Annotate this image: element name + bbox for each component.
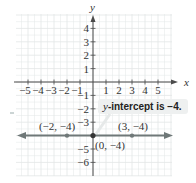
y-tick-label: −6 [77,156,89,168]
y-tick-label: 4 [84,22,90,34]
x-tick-label: 4 [142,84,148,96]
y-tick-label: −3 [77,116,89,128]
x-tick-label: −5 [19,84,31,96]
right-arrow-icon [164,132,173,139]
y-tick-label: −2 [77,103,89,115]
x-tick-label: 3 [129,84,135,96]
y-tick-labels: 4321−1−2−3−5−6 [77,22,89,168]
y-tick-label: 2 [84,49,90,61]
x-tick-label: 1 [103,84,109,96]
data-point [65,133,69,137]
y-tick-label: 3 [84,36,90,48]
x-tick-label: −3 [45,84,57,96]
callout-leader [96,114,110,134]
x-tick-label: 5 [155,84,161,96]
point-label: (0, −4) [95,139,125,152]
y-tick-label: 1 [84,63,90,75]
x-tick-label: −2 [58,84,70,96]
callout-text: y-intercept is −4. [102,100,182,112]
x-axis-label: x [183,76,189,88]
x-tick-labels: −5−4−3−2−112345 [19,84,161,96]
x-tick-label: 2 [116,84,122,96]
coordinate-graph: −5−4−3−2−112345 4321−1−2−3−5−6 x y y-int… [0,0,196,183]
callout-rest: -intercept is −4. [108,101,182,112]
y-tick-label: −1 [77,89,89,101]
y-axis-label: y [89,1,95,13]
point-label: (3, −4) [118,120,148,133]
y-axis-arrow-icon [91,15,96,22]
x-tick-label: −4 [32,84,44,96]
x-axis-arrow-icon [171,80,178,85]
y-tick-label: −5 [77,143,89,155]
data-point [130,133,134,137]
point-label: (−2, −4) [39,120,76,133]
data-point [90,133,95,138]
